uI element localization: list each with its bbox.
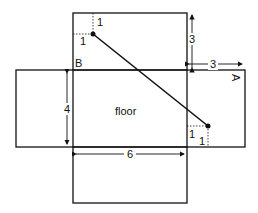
end-offset-y: 1: [199, 135, 205, 147]
start-offset-x: 1: [80, 35, 86, 47]
start-offset-y: 1: [97, 16, 103, 28]
dim-floor-depth: 4: [64, 103, 70, 115]
dim-height-top: 3: [189, 33, 195, 45]
end-offset-x: 1: [189, 128, 195, 140]
dim-width-right-flap: 3: [210, 58, 216, 70]
top-panel: [73, 13, 187, 70]
dim-floor-width: 6: [127, 148, 133, 160]
floor-label: floor: [115, 105, 137, 117]
path-line: [93, 34, 208, 126]
corner-b-label: B: [75, 57, 82, 69]
box-net-diagram: floor B A 3 3 4 6 1 1 1 1: [0, 0, 258, 213]
corner-a-label: A: [230, 74, 242, 82]
